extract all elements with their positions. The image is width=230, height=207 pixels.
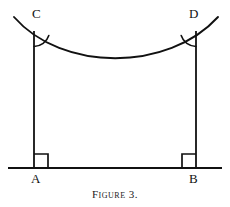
figure-container: C D A B Figure 3. <box>0 0 230 207</box>
catenary-curve <box>14 17 218 58</box>
vertex-label-a: A <box>31 172 41 185</box>
vertex-label-d: D <box>189 7 199 20</box>
vertex-label-c: C <box>32 7 41 20</box>
vertex-label-b: B <box>189 172 198 185</box>
figure-caption: Figure 3. <box>0 188 230 200</box>
right-angle-marker-a-icon <box>34 154 48 168</box>
right-angle-marker-b-icon <box>182 154 196 168</box>
